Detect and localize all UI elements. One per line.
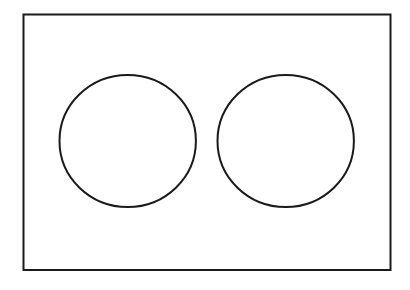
diagram-canvas (0, 0, 410, 290)
background (0, 0, 410, 290)
